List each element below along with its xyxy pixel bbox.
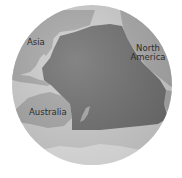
globe-map bbox=[0, 0, 182, 178]
label-north-america-line2: America bbox=[128, 53, 168, 62]
label-australia: Australia bbox=[29, 108, 67, 117]
label-north-america: North America bbox=[128, 44, 168, 62]
label-asia: Asia bbox=[27, 38, 45, 47]
